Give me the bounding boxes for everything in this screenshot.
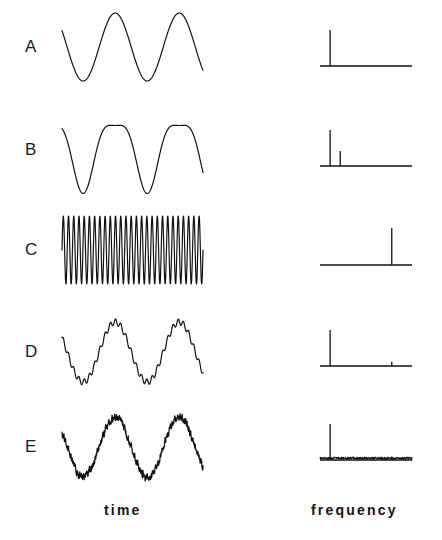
frequency-spectrum-e [0, 0, 442, 540]
axis-caption-time: time [104, 503, 142, 517]
figure-canvas: ABCDEtimefrequency [0, 0, 442, 540]
axis-caption-frequency: frequency [311, 503, 398, 517]
